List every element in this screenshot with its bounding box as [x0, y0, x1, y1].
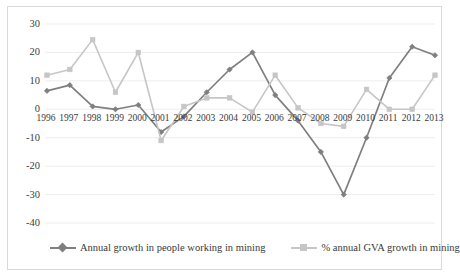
x-axis-tick-label: 2007	[288, 113, 307, 124]
data-point-marker	[364, 135, 369, 140]
data-point-marker	[159, 138, 164, 143]
x-axis-tick-label: 2012	[402, 113, 421, 124]
data-point-marker	[364, 87, 369, 92]
y-axis-tick-label: -40	[14, 217, 40, 228]
data-point-marker	[432, 53, 437, 58]
x-axis-tick-label: 2003	[196, 113, 215, 124]
legend-item-label: Annual growth in people working in minin…	[80, 242, 265, 253]
data-point-marker	[273, 73, 278, 78]
data-point-marker	[45, 73, 50, 78]
x-axis-tick-label: 2009	[333, 113, 352, 124]
data-point-marker	[90, 37, 95, 42]
y-axis-tick-label: 20	[14, 46, 40, 57]
chart-legend: Annual growth in people working in minin…	[50, 242, 460, 253]
y-axis-tick-label: -10	[14, 132, 40, 143]
x-axis-tick-label: 1997	[59, 113, 78, 124]
data-point-marker	[433, 73, 438, 78]
legend-item-label: % annual GVA growth in mining	[321, 242, 459, 253]
x-axis-tick-label: 2000	[128, 113, 147, 124]
x-axis-tick-label: 2005	[242, 113, 261, 124]
x-axis-tick-label: 1998	[82, 113, 101, 124]
x-axis-tick-label: 2004	[219, 113, 238, 124]
data-point-marker	[410, 107, 415, 112]
legend-item[interactable]: Annual growth in people working in minin…	[50, 242, 265, 253]
x-axis-tick-label: 2011	[379, 113, 398, 124]
data-point-marker	[44, 88, 49, 93]
data-point-marker	[68, 67, 73, 72]
x-axis-tick-label: 2006	[265, 113, 284, 124]
data-point-marker	[136, 50, 141, 55]
data-point-marker	[113, 90, 118, 95]
x-axis-tick-label: 1996	[37, 113, 56, 124]
legend-item[interactable]: % annual GVA growth in mining	[291, 242, 459, 253]
legend-square-marker-icon	[291, 243, 317, 252]
data-point-marker	[182, 104, 187, 109]
data-point-marker	[204, 96, 209, 101]
y-axis-tick-label: 30	[14, 18, 40, 29]
x-axis-tick-label: 1999	[105, 113, 124, 124]
y-axis-tick-label: -20	[14, 160, 40, 171]
data-point-marker	[227, 96, 232, 101]
x-axis-tick-label: 2010	[356, 113, 375, 124]
y-axis-tick-label: -30	[14, 189, 40, 200]
x-axis-tick-label: 2008	[310, 113, 329, 124]
x-axis-tick-label: 2013	[425, 113, 444, 124]
data-point-marker	[296, 106, 301, 111]
y-axis-tick-label: 10	[14, 75, 40, 86]
series-line-2	[47, 40, 435, 141]
data-point-marker	[341, 124, 346, 129]
data-point-marker	[387, 107, 392, 112]
x-axis-tick-label: 2001	[151, 113, 170, 124]
x-axis-tick-label: 2002	[173, 113, 192, 124]
data-point-marker	[113, 107, 118, 112]
legend-diamond-marker-icon	[50, 243, 76, 252]
